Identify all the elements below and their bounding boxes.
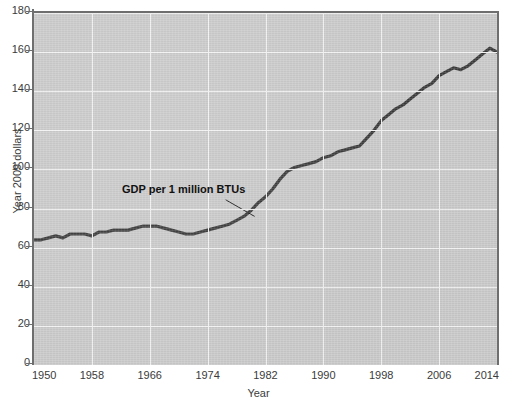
x-tick-label: 1958 xyxy=(70,369,114,381)
x-tick-label: 1990 xyxy=(301,369,345,381)
series-annotation-label: GDP per 1 million BTUs xyxy=(122,183,245,195)
x-tick-label: 1998 xyxy=(359,369,403,381)
y-axis-title: Year 2009 dollars xyxy=(11,101,23,241)
gridline-vertical xyxy=(381,13,382,365)
x-axis-title: Year xyxy=(0,387,517,399)
gridline-vertical xyxy=(266,13,267,365)
plot-area xyxy=(34,11,499,365)
gridline-vertical xyxy=(92,13,93,365)
x-tick-label: 1966 xyxy=(128,369,172,381)
x-tick-label: 1982 xyxy=(244,369,288,381)
x-tick-label: 1974 xyxy=(186,369,230,381)
x-tick-label: 2014 xyxy=(455,369,499,381)
chart-figure: 020406080100120140160180 195019581966197… xyxy=(0,0,517,407)
gridline-vertical xyxy=(439,13,440,365)
gridline-vertical xyxy=(323,13,324,365)
